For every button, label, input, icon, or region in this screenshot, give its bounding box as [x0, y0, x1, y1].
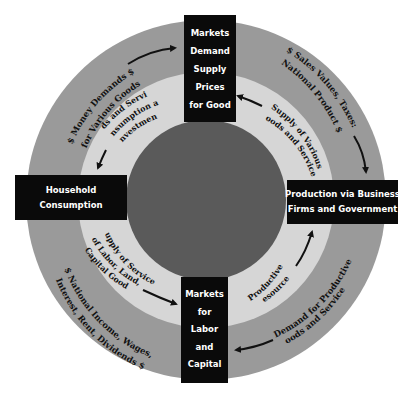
node-household-line1: Household — [46, 183, 97, 198]
node-markets-for-labor-line3: Labor — [191, 321, 218, 339]
node-markets-for-goods: Markets Demand Supply Prices for Good — [184, 15, 236, 122]
node-markets-for-labor-capital: Markets for Labor and Capital — [181, 277, 228, 383]
node-markets-for-goods-line5: for Good — [189, 96, 230, 114]
node-markets-for-labor-line4: and — [196, 339, 214, 357]
node-markets-for-goods-line4: Prices — [195, 78, 224, 96]
node-markets-for-labor-line1: Markets — [185, 286, 224, 304]
node-household-consumption: Household Consumption — [15, 175, 127, 220]
node-production-line2: Firms and Government — [288, 202, 398, 217]
inner-core — [126, 120, 286, 280]
node-markets-for-goods-line2: Demand — [190, 42, 230, 60]
node-markets-for-labor-line5: Capital — [188, 356, 222, 374]
node-markets-for-labor-line2: for — [198, 304, 212, 322]
node-production-line1: Production via Business — [285, 187, 400, 202]
node-household-line2: Consumption — [39, 198, 102, 213]
node-markets-for-goods-line1: Markets — [191, 24, 230, 42]
node-markets-for-goods-line3: Supply — [194, 60, 227, 78]
node-production-business-government: Production via Business Firms and Govern… — [287, 180, 398, 224]
